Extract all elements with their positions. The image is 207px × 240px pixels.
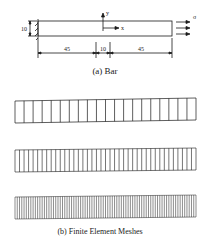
bar-diagram (28, 13, 190, 58)
dimension-right-label: 45 (138, 46, 144, 52)
coordinate-axes-icon (102, 13, 120, 31)
mesh-fine (15, 195, 196, 219)
figure-canvas: 10 y x σ 45 10 45 (a) Bar (b) Finite Ele… (0, 0, 207, 240)
mesh-medium (15, 148, 196, 172)
mesh-coarse (15, 98, 196, 123)
figure-a-caption: (a) Bar (92, 66, 117, 76)
height-label: 10 (21, 26, 27, 32)
axis-y-label: y (106, 10, 109, 16)
figure-b-caption: (b) Finite Element Meshes (57, 227, 142, 236)
fixed-support-icon (35, 19, 38, 40)
height-dimension (28, 21, 37, 36)
load-arrows-icon (176, 21, 190, 36)
axis-x-label: x (121, 25, 124, 31)
dimension-left-label: 45 (64, 46, 70, 52)
dimension-middle-label: 10 (100, 46, 106, 52)
load-label: σ (193, 14, 197, 20)
bar-body (38, 21, 172, 36)
